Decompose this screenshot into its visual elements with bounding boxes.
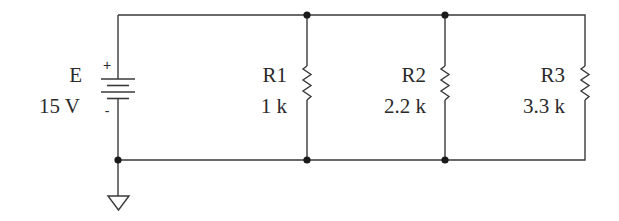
node-top-r2	[441, 11, 448, 18]
resistor-r1-icon	[303, 66, 311, 100]
top-wire	[118, 15, 585, 66]
resistor-r2-icon	[441, 66, 449, 100]
r3-name-label: R3	[540, 63, 565, 87]
r2-name-label: R2	[401, 63, 426, 87]
resistor-r3-icon	[581, 66, 589, 100]
node-bottom-r1	[303, 156, 310, 163]
node-bottom-source	[114, 156, 121, 163]
circuit-diagram: + - E 15 V R1 1 k R2 2.2 k R3 3.3 k	[0, 0, 619, 221]
source-name-label: E	[69, 63, 82, 87]
plus-sign: +	[103, 57, 111, 73]
battery-icon	[101, 79, 135, 99]
node-top-r1	[303, 11, 310, 18]
r1-name-label: R1	[262, 63, 287, 87]
r3-value-label: 3.3 k	[523, 94, 566, 118]
node-bottom-r2	[441, 156, 448, 163]
source-value-label: 15 V	[39, 94, 80, 118]
bottom-wire	[118, 100, 585, 160]
r2-value-label: 2.2 k	[384, 94, 427, 118]
minus-sign: -	[105, 103, 110, 119]
ground-icon	[108, 196, 129, 210]
r1-value-label: 1 k	[261, 94, 288, 118]
